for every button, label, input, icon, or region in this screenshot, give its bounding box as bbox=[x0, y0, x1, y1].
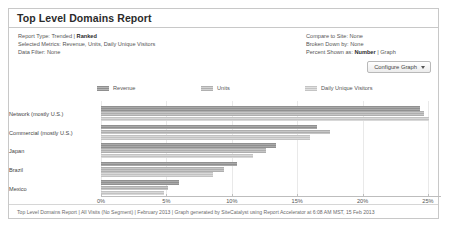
category-label: Mexico bbox=[9, 186, 97, 192]
meta-broken-down-by-value: None bbox=[350, 41, 363, 47]
chart-bar[interactable] bbox=[101, 191, 164, 196]
configure-graph-label: Configure Graph bbox=[374, 64, 417, 70]
meta-column-right: Compare to Site: None Broken Down by: No… bbox=[306, 32, 396, 57]
meta-selected-metrics-label: Selected Metrics: bbox=[18, 41, 61, 47]
legend-swatch-icon bbox=[201, 86, 213, 91]
x-tick-label: 0% bbox=[97, 198, 105, 204]
category-label: Network (mostly U.S.) bbox=[9, 111, 97, 117]
meta-report-type-selected[interactable]: Ranked bbox=[77, 33, 97, 39]
chart-plot-area: Network (mostly U.S.)Commercial (mostly … bbox=[9, 101, 438, 196]
chart-bar[interactable] bbox=[101, 172, 213, 177]
chart-bar[interactable] bbox=[101, 186, 168, 191]
x-tick-mark bbox=[428, 194, 429, 197]
x-tick-label: 10% bbox=[226, 198, 237, 204]
x-tick-label: 15% bbox=[292, 198, 303, 204]
chart-bar[interactable] bbox=[101, 135, 310, 140]
legend-item-daily-unique-visitors[interactable]: Daily Unique Visitors bbox=[305, 85, 373, 91]
page-title: Top Level Domains Report bbox=[17, 12, 152, 24]
chart-bar[interactable] bbox=[101, 167, 224, 172]
report-meta-area: Report Type: Trended | Ranked Selected M… bbox=[9, 28, 438, 72]
chart-bar[interactable] bbox=[101, 143, 276, 148]
legend-label: Daily Unique Visitors bbox=[321, 85, 373, 91]
legend-swatch-icon bbox=[97, 86, 109, 91]
category-label: Brazil bbox=[9, 167, 97, 173]
meta-column-left: Report Type: Trended | Ranked Selected M… bbox=[18, 32, 155, 57]
meta-broken-down-by: Broken Down by: None bbox=[306, 40, 396, 48]
meta-selected-metrics: Selected Metrics: Revenue, Units, Daily … bbox=[18, 40, 155, 48]
meta-report-type: Report Type: Trended | Ranked bbox=[18, 32, 155, 40]
meta-broken-down-by-label: Broken Down by: bbox=[306, 41, 349, 47]
meta-report-type-label: Report Type: bbox=[18, 33, 50, 39]
chart-bar[interactable] bbox=[101, 130, 330, 135]
meta-percent-shown-as-label: Percent Shown as: bbox=[306, 49, 353, 55]
configure-graph-button[interactable]: Configure Graph bbox=[367, 61, 431, 73]
category-label: Commercial (mostly U.S.) bbox=[9, 130, 97, 136]
report-card: Top Level Domains Report Report Type: Tr… bbox=[8, 8, 439, 219]
configure-graph-wrap: Configure Graph bbox=[367, 55, 431, 73]
x-tick-mark bbox=[363, 194, 364, 197]
chart-bar[interactable] bbox=[101, 180, 179, 185]
meta-compare-to-site-value: None bbox=[350, 33, 363, 39]
legend-swatch-icon bbox=[305, 86, 317, 91]
chevron-down-icon bbox=[421, 66, 425, 69]
chart-legend: RevenueUnitsDaily Unique Visitors bbox=[9, 85, 438, 99]
x-tick-label: 25% bbox=[422, 198, 433, 204]
chart-bar[interactable] bbox=[101, 117, 429, 122]
x-tick-mark bbox=[297, 194, 298, 197]
chart-bar[interactable] bbox=[101, 111, 424, 116]
report-footer: Top Level Domains Report | All Visits (N… bbox=[9, 204, 438, 218]
meta-report-type-value: Trended | bbox=[51, 33, 76, 39]
legend-item-units[interactable]: Units bbox=[201, 85, 230, 91]
chart-bar[interactable] bbox=[101, 148, 266, 153]
footer-text: Top Level Domains Report | All Visits (N… bbox=[17, 209, 375, 215]
meta-selected-metrics-value: Revenue, Units, Daily Unique Visitors bbox=[62, 41, 155, 47]
x-tick-mark bbox=[166, 194, 167, 197]
legend-label: Revenue bbox=[113, 85, 135, 91]
x-tick-mark bbox=[101, 194, 102, 197]
x-tick-label: 5% bbox=[162, 198, 170, 204]
meta-data-filter-value: None bbox=[47, 49, 60, 55]
legend-label: Units bbox=[217, 85, 230, 91]
meta-data-filter: Data Filter: None bbox=[18, 48, 155, 56]
category-label: Japan bbox=[9, 148, 97, 154]
x-tick-mark bbox=[232, 194, 233, 197]
report-title-bar: Top Level Domains Report bbox=[9, 9, 438, 28]
x-axis-line bbox=[101, 196, 441, 197]
meta-data-filter-label: Data Filter: bbox=[18, 49, 45, 55]
chart-bar[interactable] bbox=[101, 162, 237, 167]
meta-compare-to-site-label: Compare to Site: bbox=[306, 33, 348, 39]
x-tick-label: 20% bbox=[357, 198, 368, 204]
chart-bar[interactable] bbox=[101, 125, 317, 130]
legend-item-revenue[interactable]: Revenue bbox=[97, 85, 135, 91]
chart-bar[interactable] bbox=[101, 154, 253, 159]
chart-bar[interactable] bbox=[101, 106, 420, 111]
meta-compare-to-site: Compare to Site: None bbox=[306, 32, 396, 40]
gridline bbox=[428, 101, 429, 196]
